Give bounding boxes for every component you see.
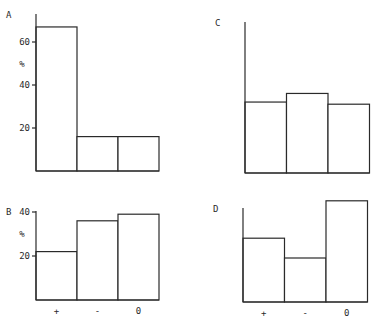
y-tick-label: 20 — [19, 251, 30, 261]
bar-b-1 — [77, 221, 118, 300]
bar-chart-figure: A204060%B2040%+-0CD+-0 — [0, 0, 387, 324]
x-category-label: + — [54, 306, 60, 316]
panel-label: B — [6, 207, 11, 217]
x-category-label: 0 — [344, 308, 349, 318]
y-axis-label: % — [19, 59, 25, 69]
bar-c-0 — [245, 102, 287, 173]
y-tick-label: 40 — [19, 207, 30, 217]
chart-panel-c: C — [215, 18, 370, 173]
y-axis-label: % — [19, 229, 25, 239]
bar-a-1 — [77, 137, 118, 171]
x-category-label: 0 — [136, 306, 141, 316]
bar-a-0 — [36, 27, 77, 171]
bar-c-1 — [287, 93, 329, 173]
x-category-label: - — [303, 308, 308, 318]
chart-panel-d: D+-0 — [213, 201, 368, 318]
bar-c-2 — [328, 104, 370, 173]
bar-a-2 — [118, 137, 159, 171]
panel-label: C — [215, 18, 220, 28]
bar-d-1 — [285, 258, 327, 302]
x-category-label: - — [95, 306, 100, 316]
y-tick-label: 40 — [19, 80, 30, 90]
panel-label: A — [6, 10, 12, 20]
chart-panel-b: B2040%+-0 — [6, 207, 159, 316]
bar-d-0 — [243, 238, 285, 302]
y-tick-label: 60 — [19, 37, 30, 47]
chart-panel-a: A204060% — [6, 10, 159, 171]
y-tick-label: 20 — [19, 123, 30, 133]
bar-d-2 — [326, 201, 368, 302]
bar-b-2 — [118, 214, 159, 300]
panel-label: D — [213, 204, 218, 214]
bar-b-0 — [36, 252, 77, 300]
x-category-label: + — [261, 308, 267, 318]
